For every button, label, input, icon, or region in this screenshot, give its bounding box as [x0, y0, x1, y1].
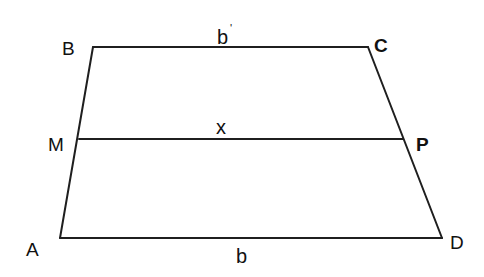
vertex-label-m: M	[48, 134, 64, 155]
segment-ab	[60, 47, 93, 238]
vertex-label-a: A	[26, 239, 39, 260]
vertex-label-b: B	[62, 38, 75, 59]
trapezoid-diagram: A B C D M P b ' x b	[0, 0, 484, 277]
vertex-label-c: C	[374, 35, 388, 56]
length-label-b-prime: b	[217, 26, 228, 48]
prime-mark: '	[230, 22, 232, 34]
vertex-label-d: D	[450, 232, 464, 253]
length-label-x: x	[216, 116, 226, 138]
length-label-b: b	[236, 245, 247, 267]
segment-cd	[368, 47, 442, 238]
vertex-label-p: P	[416, 134, 429, 155]
